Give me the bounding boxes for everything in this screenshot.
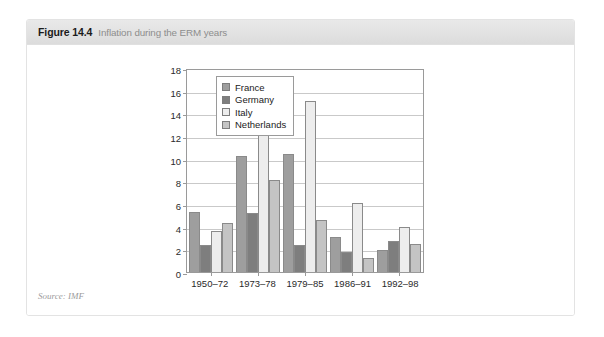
legend-swatch-icon <box>222 96 230 104</box>
x-tick-mark <box>258 272 259 276</box>
y-tick-label: 0 <box>176 269 181 280</box>
bar-group <box>376 70 423 272</box>
y-tick-label: 16 <box>170 87 181 98</box>
chart-legend: FranceGermanyItalyNetherlands <box>216 76 294 136</box>
x-axis-label: 1950–72 <box>186 278 234 289</box>
legend-swatch-icon <box>222 121 230 129</box>
bar-netherlands <box>410 244 421 272</box>
y-tick-label: 6 <box>176 201 181 212</box>
figure-source: Source: IMF <box>38 291 84 301</box>
bar-italy <box>211 231 222 272</box>
y-tick-label: 8 <box>176 178 181 189</box>
legend-item-germany: Germany <box>222 94 286 107</box>
legend-label: Germany <box>235 94 274 105</box>
bar-netherlands <box>316 220 327 272</box>
legend-swatch-icon <box>222 83 230 91</box>
bar-italy <box>352 203 363 272</box>
y-tick-label: 12 <box>170 133 181 144</box>
y-tick-mark <box>183 274 187 275</box>
x-tick-mark <box>211 272 212 276</box>
legend-item-france: France <box>222 81 286 94</box>
legend-label: France <box>235 82 265 93</box>
figure-number: Figure 14.4 <box>38 26 92 38</box>
legend-label: Netherlands <box>235 119 286 130</box>
bar-germany <box>294 245 305 272</box>
legend-item-netherlands: Netherlands <box>222 119 286 132</box>
figure-body: 024681012141618 1950–721973–781979–85198… <box>27 45 574 316</box>
figure-title: Inflation during the ERM years <box>98 27 227 38</box>
bar-germany <box>341 252 352 272</box>
x-axis-label: 1973–78 <box>234 278 282 289</box>
x-axis-label: 1979–85 <box>281 278 329 289</box>
legend-item-italy: Italy <box>222 106 286 119</box>
y-tick-label: 14 <box>170 110 181 121</box>
bar-germany <box>200 245 211 272</box>
legend-label: Italy <box>235 107 252 118</box>
bar-italy <box>305 101 316 272</box>
bar-italy <box>399 227 410 272</box>
x-axis-label: 1986–91 <box>329 278 377 289</box>
figure-header-text: Figure 14.4 Inflation during the ERM yea… <box>38 20 227 44</box>
legend-swatch-icon <box>222 108 230 116</box>
bar-france <box>283 154 294 272</box>
page-root: Figure 14.4 Inflation during the ERM yea… <box>0 0 604 337</box>
bar-france <box>377 250 388 272</box>
y-tick-label: 10 <box>170 155 181 166</box>
y-tick-label: 18 <box>170 65 181 76</box>
y-tick-label: 2 <box>176 246 181 257</box>
bar-netherlands <box>222 223 233 272</box>
bar-france <box>189 212 200 272</box>
bar-netherlands <box>269 180 280 272</box>
bar-france <box>330 237 341 272</box>
bar-germany <box>247 213 258 272</box>
y-tick-label: 4 <box>176 223 181 234</box>
bar-france <box>236 156 247 272</box>
x-tick-mark <box>399 272 400 276</box>
x-axis-label: 1992–98 <box>376 278 424 289</box>
bar-germany <box>388 241 399 272</box>
x-tick-mark <box>352 272 353 276</box>
bar-netherlands <box>363 258 374 272</box>
chart-x-axis-labels: 1950–721973–781979–851986–911992–98 <box>186 278 424 289</box>
x-tick-mark <box>305 272 306 276</box>
figure-card: Figure 14.4 Inflation during the ERM yea… <box>26 19 575 316</box>
figure-header: Figure 14.4 Inflation during the ERM yea… <box>27 20 574 45</box>
bar-group <box>329 70 376 272</box>
